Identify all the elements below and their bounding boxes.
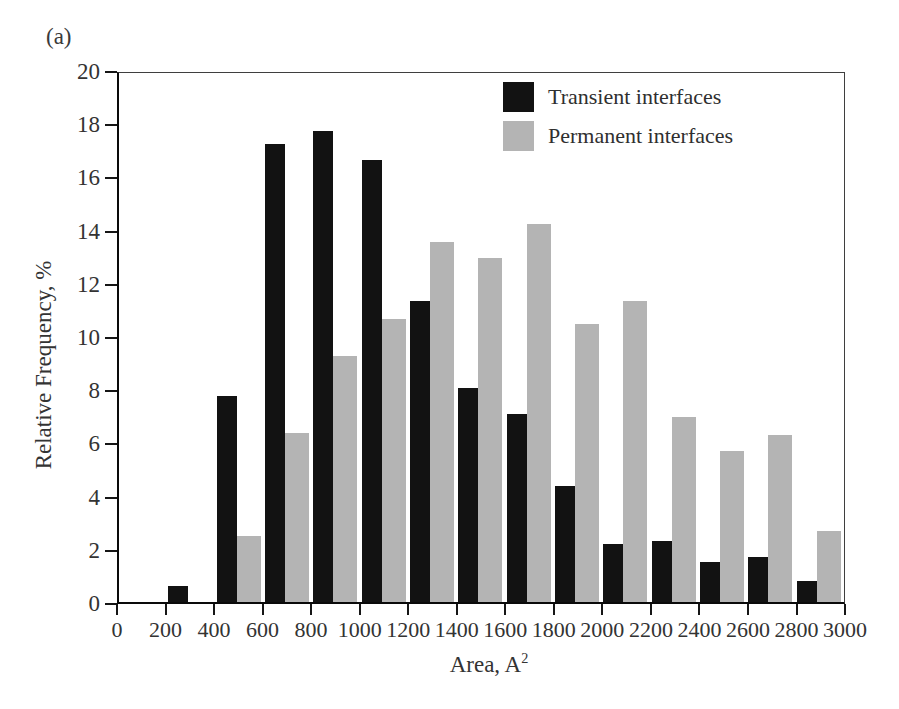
- bar-transient-400: [217, 396, 237, 602]
- x-tick-2600: [747, 604, 749, 615]
- figure: (a) Transient interfacesPermanent interf…: [0, 0, 899, 709]
- bar-permanent-1000: [382, 319, 406, 602]
- bar-transient-2400: [700, 562, 720, 602]
- x-tick-1800: [553, 604, 555, 615]
- bar-permanent-2800: [817, 531, 841, 602]
- legend: Transient interfacesPermanent interfaces: [503, 82, 733, 160]
- x-tick-1400: [456, 604, 458, 615]
- bar-transient-600: [265, 144, 285, 602]
- bar-permanent-1200: [430, 242, 454, 602]
- y-tick-label-4: 4: [30, 485, 100, 511]
- y-tick-6: [105, 443, 117, 445]
- y-tick-8: [105, 390, 117, 392]
- x-axis-title-text: Area, A: [450, 652, 522, 677]
- x-axis-title-superscript: 2: [521, 650, 528, 666]
- x-tick-400: [213, 604, 215, 615]
- x-tick-label-3000: 3000: [813, 618, 877, 642]
- x-tick-800: [310, 604, 312, 615]
- bar-permanent-2600: [768, 435, 792, 602]
- legend-label: Transient interfaces: [548, 82, 721, 112]
- x-tick-2200: [650, 604, 652, 615]
- y-tick-label-14: 14: [30, 219, 100, 245]
- bar-permanent-1400: [478, 258, 502, 602]
- x-tick-1200: [407, 604, 409, 615]
- bar-transient-2800: [797, 581, 817, 602]
- bar-transient-2200: [652, 541, 672, 602]
- legend-swatch-permanent: [503, 121, 534, 151]
- x-tick-2000: [601, 604, 603, 615]
- legend-label: Permanent interfaces: [548, 121, 733, 151]
- bar-permanent-600: [285, 433, 309, 602]
- bar-transient-1000: [362, 160, 382, 602]
- bars-layer: [119, 73, 844, 602]
- y-tick-label-16: 16: [30, 165, 100, 191]
- bar-transient-2000: [603, 544, 623, 602]
- x-axis-title: Area, A2: [339, 652, 639, 678]
- y-tick-label-2: 2: [30, 538, 100, 564]
- bar-transient-1600: [507, 414, 527, 602]
- y-tick-16: [105, 177, 117, 179]
- y-tick-12: [105, 284, 117, 286]
- plot-area: Transient interfacesPermanent interfaces: [117, 72, 845, 604]
- bar-transient-1800: [555, 486, 575, 602]
- panel-label: (a): [46, 24, 72, 50]
- y-tick-20: [105, 71, 117, 73]
- x-tick-2400: [698, 604, 700, 615]
- bar-permanent-400: [237, 536, 261, 602]
- x-tick-0: [116, 604, 118, 615]
- x-tick-1000: [359, 604, 361, 615]
- y-axis-title-text: Relative Frequency, %: [31, 261, 56, 470]
- bar-transient-1200: [410, 301, 430, 603]
- y-axis-title: Relative Frequency, %: [31, 261, 57, 470]
- bar-permanent-800: [333, 356, 357, 602]
- bar-permanent-2400: [720, 451, 744, 602]
- legend-item-permanent: Permanent interfaces: [503, 121, 733, 151]
- x-tick-2800: [796, 604, 798, 615]
- legend-swatch-transient: [503, 82, 534, 112]
- y-tick-14: [105, 231, 117, 233]
- bar-permanent-1800: [575, 324, 599, 602]
- bar-transient-2600: [748, 557, 768, 602]
- x-tick-1600: [504, 604, 506, 615]
- bar-permanent-1600: [527, 224, 551, 602]
- y-tick-label-18: 18: [30, 112, 100, 138]
- y-tick-10: [105, 337, 117, 339]
- y-tick-2: [105, 550, 117, 552]
- y-tick-label-20: 20: [30, 59, 100, 85]
- bar-permanent-2000: [623, 301, 647, 603]
- y-tick-4: [105, 497, 117, 499]
- legend-item-transient: Transient interfaces: [503, 82, 733, 112]
- bar-transient-800: [313, 131, 333, 602]
- x-tick-600: [262, 604, 264, 615]
- y-tick-18: [105, 124, 117, 126]
- bar-transient-200: [168, 586, 188, 602]
- bar-permanent-2200: [672, 417, 696, 602]
- bar-transient-1400: [458, 388, 478, 602]
- y-tick-label-0: 0: [30, 591, 100, 617]
- x-tick-200: [165, 604, 167, 615]
- x-tick-3000: [844, 604, 846, 615]
